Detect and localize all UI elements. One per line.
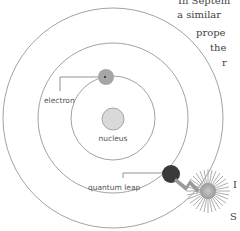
quantum-leap-label: quantum leap bbox=[88, 183, 141, 192]
body-text-line-2: a similar bbox=[177, 10, 221, 20]
energy-burst-icon bbox=[186, 169, 230, 213]
nucleus-label: nucleus bbox=[99, 134, 128, 143]
atom-diagram: nucleus electron quantum leap bbox=[0, 0, 240, 231]
electron-label: electron bbox=[44, 96, 75, 105]
electron-dot bbox=[104, 76, 106, 78]
body-text-line-3: prope bbox=[196, 28, 226, 38]
nucleus-icon bbox=[102, 108, 124, 130]
body-text-line-1: In Septem bbox=[178, 0, 230, 6]
body-text-line-5: r bbox=[222, 58, 227, 68]
quantum-leap-leader-line bbox=[123, 173, 163, 178]
body-text-line-7: S bbox=[230, 212, 237, 222]
body-text-line-6: I bbox=[233, 180, 237, 190]
body-text-line-4: the bbox=[210, 43, 226, 53]
